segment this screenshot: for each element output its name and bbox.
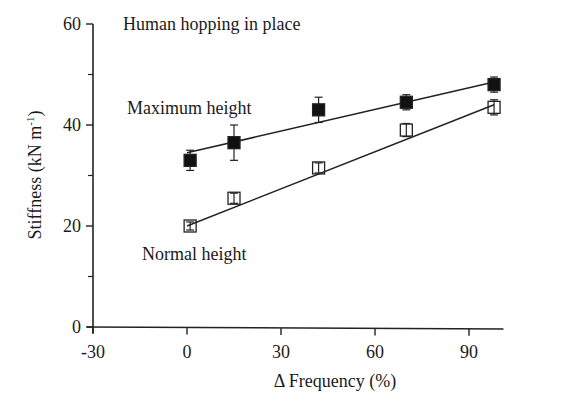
y-axis: 0204060	[63, 14, 93, 337]
x-tick-label: -30	[81, 342, 105, 362]
fit-line	[187, 105, 494, 226]
normal-height-point	[400, 123, 412, 136]
x-tick-label: 60	[366, 342, 384, 362]
x-tick-label: 0	[183, 342, 192, 362]
chart-title: Human hopping in place	[123, 14, 300, 34]
stiffness-chart: 0204060 -300306090 Human hopping in plac…	[0, 0, 577, 417]
normal-height-point	[228, 192, 240, 204]
max-height-point	[228, 125, 240, 160]
y-axis-label: Stiffness (kN m-1)	[24, 111, 46, 240]
x-axis-label: Δ Frequency (%)	[274, 371, 397, 392]
series-label-maximum-height: Maximum height	[127, 98, 252, 118]
max-height-point	[488, 77, 500, 92]
y-tick-label: 20	[63, 216, 81, 236]
max-height-point	[313, 97, 325, 122]
y-tick-label: 0	[72, 317, 81, 337]
normal-height-point	[184, 220, 196, 232]
x-tick-label: 30	[272, 342, 290, 362]
series-label-normal-height: Normal height	[142, 244, 246, 264]
y-tick-label: 60	[63, 14, 81, 34]
y-tick-label: 40	[63, 115, 81, 135]
max-height-point	[184, 150, 196, 170]
max-height-point	[400, 95, 412, 110]
x-tick-label: 90	[460, 342, 478, 362]
normal-height-point	[488, 100, 500, 115]
svg-text:Stiffness (kN m-1): Stiffness (kN m-1)	[24, 111, 46, 240]
x-axis: -300306090	[81, 327, 503, 362]
